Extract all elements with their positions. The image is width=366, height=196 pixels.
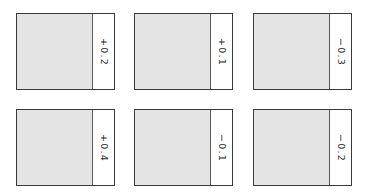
panel-r1-c1: +0.2 xyxy=(16,13,115,90)
value-label: +0.4 xyxy=(99,134,109,162)
gray-field xyxy=(135,110,211,185)
value-strip: +0.2 xyxy=(93,14,114,89)
value-strip: −0.2 xyxy=(330,110,351,185)
panel-r2-c3: −0.2 xyxy=(253,109,352,186)
panel-r1-c3: −0.3 xyxy=(253,13,352,90)
value-label: −0.2 xyxy=(336,134,346,162)
gray-field xyxy=(254,110,330,185)
panel-r2-c2: −0.1 xyxy=(134,109,233,186)
value-label: +0.1 xyxy=(217,38,227,66)
value-strip: −0.3 xyxy=(330,14,351,89)
gray-field xyxy=(254,14,330,89)
value-label: −0.3 xyxy=(336,38,346,66)
gray-field xyxy=(17,110,93,185)
value-label: −0.1 xyxy=(217,134,227,162)
value-label: +0.2 xyxy=(99,38,109,66)
value-strip: +0.1 xyxy=(211,14,232,89)
gray-field xyxy=(135,14,211,89)
value-strip: −0.1 xyxy=(211,110,232,185)
panel-r1-c2: +0.1 xyxy=(134,13,233,90)
panel-r2-c1: +0.4 xyxy=(16,109,115,186)
gray-field xyxy=(17,14,93,89)
value-strip: +0.4 xyxy=(93,110,114,185)
